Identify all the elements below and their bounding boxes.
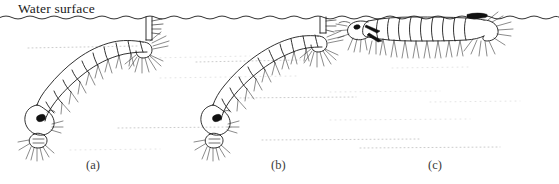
- water-surface-label: Water surface: [18, 1, 95, 17]
- larva-c-head: [335, 21, 382, 54]
- larva-b-mouth-brushes: [194, 133, 230, 161]
- larva-a: [18, 17, 169, 161]
- larva-a-head: [25, 105, 63, 135]
- panel-label-b: (b): [271, 158, 286, 173]
- mosquito-larvae-figure: Water surface (a) (b) (c): [0, 0, 559, 184]
- panel-label-a: (a): [86, 158, 100, 173]
- larva-a-mouth-brushes: [18, 133, 54, 161]
- larva-b-body: [213, 35, 322, 120]
- figure-artwork: [0, 0, 559, 184]
- larva-b: [194, 17, 344, 161]
- larva-c-body: [363, 17, 484, 41]
- larva-b-siphon: [320, 17, 336, 33]
- larva-b-head: [201, 105, 239, 135]
- larva-b-anal-segment: [300, 31, 344, 67]
- larva-a-body: [37, 41, 147, 122]
- larva-a-siphon: [146, 17, 163, 40]
- panel-label-c: (c): [428, 158, 442, 173]
- larva-c-palmate-hairs: [380, 39, 463, 58]
